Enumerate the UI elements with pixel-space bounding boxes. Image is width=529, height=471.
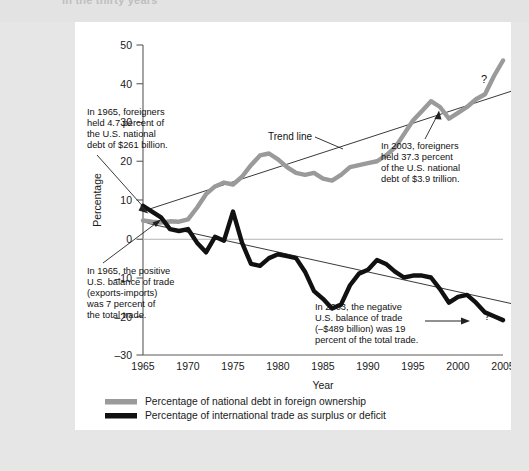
x-tick-label-1980: 1980 (266, 360, 290, 372)
annotation-debt-2003-arrow (435, 111, 442, 120)
trend-line-label-leader (315, 137, 343, 149)
x-tick-label-2005: 2005 (491, 360, 511, 372)
annotation-debt-1965-line3: the U.S. national (87, 129, 156, 139)
annotation-trade-2003: In 2003, the negative U.S. balance of tr… (315, 302, 470, 345)
legend: Percentage of national debt in foreign o… (105, 396, 386, 421)
annotation-debt-2003-line4: debt of $3.9 trillion. (381, 174, 460, 184)
annotation-debt-1965-line2: held 4.7 percent of (87, 118, 164, 128)
annotation-trade-1965-line2: U.S. balance of trade (87, 277, 174, 287)
annotation-trade-2003-line3: (–$489 billion) was 19 (315, 324, 405, 334)
cutoff-body-text: In the thirty years (62, 0, 158, 6)
x-tick-label-1990: 1990 (356, 360, 380, 372)
x-axis-title: Year (312, 379, 334, 391)
y-tick-label-10: 10 (120, 194, 132, 206)
y-tick-label-40: 40 (120, 78, 132, 90)
y-axis-title: Percentage (91, 173, 103, 227)
y-tick-label-20: 20 (120, 155, 132, 167)
x-tick-label-1985: 1985 (311, 360, 335, 372)
annotation-trade-1965-leader (103, 221, 159, 263)
annotation-trade-2003-line4: percent of the total trade. (315, 335, 418, 345)
chart-svg: 50 40 30 20 10 0 –10 –20 –30 1965 1970 1… (75, 22, 511, 430)
x-tick-label-1965: 1965 (131, 360, 155, 372)
y-tick-label-50: 50 (120, 39, 132, 51)
y-tick-label-minus30: –30 (114, 349, 132, 361)
annotation-debt-1965-line4: debt of $261 billion. (87, 140, 168, 150)
x-tick-label-1970: 1970 (176, 360, 200, 372)
annotation-trade-2003-arrow (461, 318, 470, 325)
annotation-trade-1965-line5: the total trade. (87, 310, 146, 320)
trend-line-trade-balance (148, 223, 512, 307)
question-mark-upper: ? (481, 73, 487, 85)
legend-swatch-trade-balance (105, 413, 137, 419)
page-top-strip: In the thirty years (0, 0, 529, 22)
annotation-debt-1965-line1: In 1965, foreigners (87, 107, 165, 117)
legend-swatch-national-debt (105, 399, 137, 405)
annotation-debt-2003-line1: In 2003, foreigners (381, 141, 459, 151)
annotation-debt-2003-line2: held 37.3 percent (381, 152, 453, 162)
x-tick-label-2000: 2000 (446, 360, 470, 372)
trend-line-label-text: Trend line (268, 131, 313, 142)
x-tick-label-1995: 1995 (401, 360, 425, 372)
question-mark-lower: ? (484, 310, 490, 322)
annotation-trade-1965-line3: (exports-imports) (87, 288, 157, 298)
figure-panel: 50 40 30 20 10 0 –10 –20 –30 1965 1970 1… (75, 22, 511, 430)
annotation-debt-2003-line3: of the U.S. national (381, 163, 460, 173)
legend-label-trade-balance: Percentage of international trade as sur… (145, 410, 386, 421)
annotation-trade-1965-line4: was 7 percent of (86, 299, 156, 309)
annotation-debt-2003: In 2003, foreigners held 37.3 percent of… (381, 111, 460, 185)
annotation-trade-1965-line1: In 1965, the positive (87, 266, 170, 276)
annotation-trade-2003-line2: U.S. balance of trade (315, 313, 402, 323)
x-tick-label-1975: 1975 (221, 360, 245, 372)
annotation-trend-label: Trend line (268, 131, 343, 149)
annotation-trade-2003-line1: In 2003, the negative (315, 302, 402, 312)
legend-label-national-debt: Percentage of national debt in foreign o… (145, 396, 366, 407)
